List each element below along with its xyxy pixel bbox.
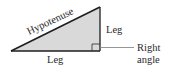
horizontal-leg-label: Leg	[47, 54, 64, 65]
vertical-leg-label: Leg	[106, 24, 123, 35]
right-triangle-diagram: Hypotenuse Leg Leg Right angle	[0, 0, 169, 77]
right-angle-label-line2: angle	[137, 54, 160, 65]
right-angle-label-line1: Right	[137, 42, 160, 53]
